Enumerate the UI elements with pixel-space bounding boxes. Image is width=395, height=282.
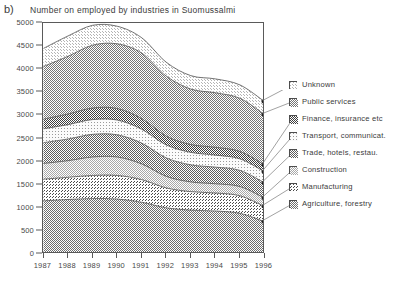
legend-item[interactable]: Manufacturing <box>289 178 395 195</box>
legend-swatch-icon <box>289 200 297 208</box>
x-axis-tick-mark <box>67 253 68 258</box>
legend-item[interactable]: Construction <box>289 161 395 178</box>
y-axis-tick-label: 2000 <box>17 156 35 165</box>
chart-title: Number on employed by industries in Suom… <box>30 5 235 15</box>
chart-figure: b) Number on employed by industries in S… <box>0 0 395 282</box>
x-axis-tick-mark <box>239 253 240 258</box>
legend-item[interactable]: Trade, hotels, restau. <box>289 144 395 161</box>
x-axis-tick-label: 1995 <box>230 261 248 270</box>
legend-item[interactable]: Unknown <box>289 76 395 93</box>
legend-item-label: Unknown <box>302 80 335 89</box>
x-axis-tick-label: 1991 <box>132 261 150 270</box>
chart-legend: UnknownPublic servicesFinance, insurance… <box>289 76 395 212</box>
x-axis-tick-mark <box>165 253 166 258</box>
y-axis-tick-label: 4000 <box>17 64 35 73</box>
x-axis-tick-mark <box>43 253 44 258</box>
x-axis-tick-mark <box>92 253 93 258</box>
x-axis-tick-label: 1994 <box>206 261 224 270</box>
legend-item[interactable]: Transport, communicat. <box>289 127 395 144</box>
legend-item-label: Finance, insurance etc <box>302 114 383 123</box>
legend-item[interactable]: Finance, insurance etc <box>289 110 395 127</box>
x-axis-tick-mark <box>264 253 265 258</box>
y-axis-tick-label: 3500 <box>17 87 35 96</box>
x-axis-tick-label: 1996 <box>255 261 273 270</box>
x-axis: 1987198819891990199119921993199419951996 <box>42 253 264 281</box>
y-axis-tick-label: 0 <box>30 249 34 258</box>
plot-area <box>42 22 264 253</box>
legend-swatch-icon <box>289 115 297 123</box>
legend-item[interactable]: Public services <box>289 93 395 110</box>
y-axis-tick-label: 2500 <box>17 133 35 142</box>
legend-item-label: Public services <box>302 97 356 106</box>
y-axis-tick-label: 1500 <box>17 179 35 188</box>
legend-swatch-icon <box>289 183 297 191</box>
legend-swatch-icon <box>289 98 297 106</box>
legend-swatch-icon <box>289 149 297 157</box>
y-axis-tick-label: 3000 <box>17 110 35 119</box>
x-axis-tick-label: 1988 <box>58 261 76 270</box>
y-axis-tick-label: 4500 <box>17 41 35 50</box>
x-axis-tick-mark <box>116 253 117 258</box>
panel-letter: b) <box>4 3 14 15</box>
y-axis-tick-label: 500 <box>21 225 34 234</box>
legend-item-label: Manufacturing <box>302 182 353 191</box>
x-axis-tick-label: 1992 <box>157 261 175 270</box>
y-axis: 0500100015002000250030003500400045005000 <box>0 22 42 253</box>
legend-item[interactable]: Agriculture, forestry <box>289 195 395 212</box>
y-axis-tick-label: 1000 <box>17 202 35 211</box>
legend-item-label: Transport, communicat. <box>302 131 386 140</box>
x-axis-tick-label: 1993 <box>181 261 199 270</box>
legend-swatch-icon <box>289 81 297 89</box>
x-axis-tick-mark <box>190 253 191 258</box>
x-axis-tick-mark <box>214 253 215 258</box>
x-axis-tick-label: 1990 <box>107 261 125 270</box>
y-axis-tick-label: 5000 <box>17 18 35 27</box>
legend-swatch-icon <box>289 166 297 174</box>
legend-swatch-icon <box>289 132 297 140</box>
legend-item-label: Construction <box>302 165 347 174</box>
stacked-area-plot <box>43 23 264 253</box>
x-axis-tick-label: 1989 <box>83 261 101 270</box>
legend-item-label: Trade, hotels, restau. <box>302 148 378 157</box>
x-axis-tick-label: 1987 <box>34 261 52 270</box>
legend-item-label: Agriculture, forestry <box>302 199 372 208</box>
x-axis-tick-mark <box>141 253 142 258</box>
